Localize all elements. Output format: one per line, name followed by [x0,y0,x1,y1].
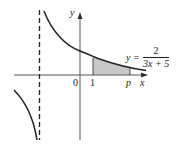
graph-canvas [0,0,184,150]
function-graph: y x 0 1 p y = 2 3x + 5 [0,0,184,150]
curve-left-branch [14,90,37,140]
tick-label-p: p [126,78,131,88]
y-axis-label: y [70,8,74,18]
x-axis-label: x [140,78,144,88]
equation-fraction: 2 3x + 5 [143,46,169,69]
origin-label: 0 [73,78,78,88]
equation-denominator: 3x + 5 [143,58,169,69]
equation-numerator: 2 [143,46,169,58]
equation-lhs: y = [126,53,140,63]
y-axis-arrow [78,12,83,19]
tick-label-1: 1 [90,78,95,88]
